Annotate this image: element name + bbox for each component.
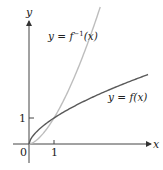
function-inverse-graph: y x 0 1 1 y = f−1(x) y = f(x) (0, 0, 163, 170)
function-curve (29, 75, 148, 144)
y-axis-label: y (25, 6, 33, 19)
x-axis-label: x (153, 138, 160, 151)
inverse-function-label: y = f−1(x) (47, 30, 98, 42)
graph-canvas: y x 0 1 1 y = f−1(x) y = f(x) (0, 0, 163, 170)
inverse-label-prefix: y = f (47, 30, 75, 42)
origin-label: 0 (20, 146, 27, 159)
function-label: y = f(x) (107, 91, 147, 103)
inverse-label-suffix: (x) (84, 30, 98, 42)
inverse-function-curve (29, 7, 100, 144)
y-tick-label-1: 1 (19, 112, 26, 125)
inverse-label-sup: −1 (73, 30, 83, 38)
x-tick-label-1: 1 (51, 146, 58, 159)
